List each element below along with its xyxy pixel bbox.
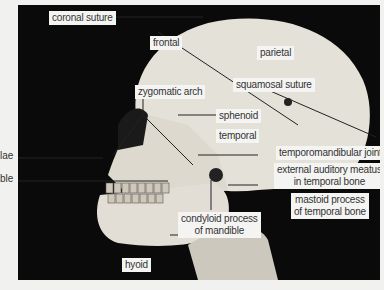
external-auditory-meatus	[209, 168, 223, 182]
label-frontal: frontal	[150, 36, 182, 50]
label-condyloid-process-line1: condyloid process	[181, 213, 258, 225]
label-mastoid-process-line1: mastoid process	[294, 194, 366, 206]
label-external-auditory-meatus: external auditory meatus in temporal bon…	[274, 163, 380, 189]
label-mastoid-process: mastoid process of temporal bone	[291, 193, 369, 219]
label-external-auditory-meatus-line2: in temporal bone	[277, 176, 380, 188]
label-sphenoid: sphenoid	[216, 109, 261, 123]
label-condyloid-process: condyloid process of mandible	[178, 212, 261, 238]
label-squamosal-suture: squamosal suture	[233, 78, 315, 92]
label-temporal: temporal	[216, 129, 259, 143]
label-parietal: parietal	[257, 46, 294, 60]
label-condyloid-process-line2: of mandible	[181, 225, 258, 237]
label-coronal-suture: coronal suture	[49, 11, 116, 25]
label-cut-mandible: ble	[0, 173, 13, 185]
label-external-auditory-meatus-line1: external auditory meatus	[277, 164, 380, 176]
label-mastoid-process-line2: of temporal bone	[294, 206, 366, 218]
skull-photo: coronal suture frontal parietal squamosa…	[18, 5, 380, 280]
label-cut-maxillae: lae	[0, 150, 13, 162]
skull-illustration	[18, 5, 380, 280]
label-zygomatic-arch: zygomatic arch	[135, 85, 205, 99]
label-temporomandibular-joint: temporomandibular joint	[276, 146, 380, 160]
label-hyoid: hyoid	[122, 258, 151, 272]
